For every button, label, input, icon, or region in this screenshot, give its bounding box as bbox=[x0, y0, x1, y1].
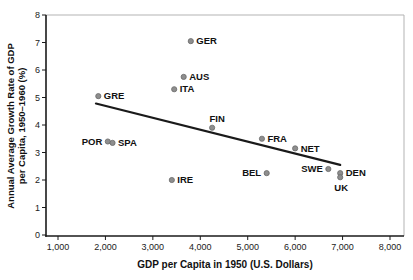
y-tick-label: 6 bbox=[35, 65, 40, 75]
y-tick-label: 3 bbox=[35, 148, 40, 158]
chart-layers: 1,0002,0003,0004,0005,0006,0007,0008,000… bbox=[35, 10, 404, 252]
point-label-ITA: ITA bbox=[180, 83, 195, 94]
y-tick-label: 8 bbox=[35, 10, 40, 20]
scatter-figure: 1,0002,0003,0004,0005,0006,0007,0008,000… bbox=[0, 0, 413, 280]
data-point-BEL bbox=[264, 171, 269, 176]
x-tick-label: 5,000 bbox=[236, 242, 259, 252]
data-point-NET bbox=[293, 146, 298, 151]
point-label-FIN: FIN bbox=[209, 113, 224, 124]
point-label-UK: UK bbox=[334, 182, 348, 193]
point-label-SPA: SPA bbox=[118, 137, 137, 148]
point-label-DEN: DEN bbox=[346, 167, 366, 178]
point-label-FRA: FRA bbox=[267, 133, 287, 144]
y-tick-label: 7 bbox=[35, 38, 40, 48]
point-label-SWE: SWE bbox=[301, 163, 323, 174]
data-point-AUS bbox=[181, 74, 186, 79]
data-point-IRE bbox=[169, 177, 174, 182]
data-point-ITA bbox=[172, 87, 177, 92]
data-point-FIN bbox=[210, 125, 215, 130]
x-tick-label: 1,000 bbox=[47, 242, 70, 252]
data-point-GER bbox=[188, 39, 193, 44]
data-point-UK bbox=[338, 175, 343, 180]
x-axis-title: GDP per Capita in 1950 (U.S. Dollars) bbox=[137, 259, 312, 270]
point-label-AUS: AUS bbox=[189, 71, 209, 82]
y-tick-label: 2 bbox=[35, 175, 40, 185]
x-tick-label: 4,000 bbox=[189, 242, 212, 252]
point-label-GER: GER bbox=[196, 35, 217, 46]
data-point-SWE bbox=[326, 166, 331, 171]
point-label-GRE: GRE bbox=[104, 90, 125, 101]
x-tick-label: 2,000 bbox=[94, 242, 117, 252]
data-point-SPA bbox=[110, 140, 115, 145]
x-tick-label: 3,000 bbox=[142, 242, 165, 252]
y-tick-label: 0 bbox=[35, 230, 40, 240]
y-tick-label: 4 bbox=[35, 120, 40, 130]
scatter-chart: 1,0002,0003,0004,0005,0006,0007,0008,000… bbox=[0, 0, 413, 280]
data-point-FRA bbox=[259, 136, 264, 141]
x-tick-label: 8,000 bbox=[379, 242, 402, 252]
point-label-IRE: IRE bbox=[177, 174, 193, 185]
point-label-BEL: BEL bbox=[242, 167, 261, 178]
x-tick-label: 7,000 bbox=[331, 242, 354, 252]
y-axis-title-line2: per Capita, 1950–1960 (%) bbox=[16, 68, 27, 185]
y-tick-label: 5 bbox=[35, 93, 40, 103]
point-label-POR: POR bbox=[82, 136, 103, 147]
y-axis-title-line1: Annual Average Growth Rate of GDP bbox=[5, 43, 16, 209]
y-tick-label: 1 bbox=[35, 203, 40, 213]
x-tick-label: 6,000 bbox=[284, 242, 307, 252]
point-label-NET: NET bbox=[301, 143, 320, 154]
data-point-GRE bbox=[96, 94, 101, 99]
